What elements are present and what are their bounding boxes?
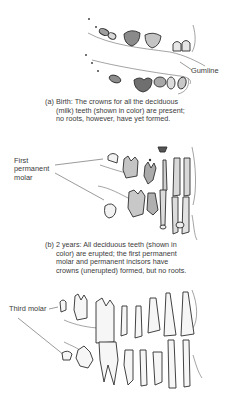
caption-a: (a) Birth: The crowns for all the decidu… (45, 98, 195, 128)
third-molar-label: Third molar (9, 305, 46, 313)
panel-a-illustration (0, 0, 230, 100)
caption-b: (b) 2 years: All deciduous teeth (shown … (45, 241, 195, 277)
panel-c-illustration (0, 275, 230, 393)
gumline-label: Gumline (191, 67, 219, 75)
caption-a-tag: (a) (45, 98, 54, 107)
first-permanent-molar-label: First permanent molar (14, 157, 64, 182)
panel-b-illustration (0, 125, 230, 245)
caption-a-text: Birth: The crowns for all the deciduous … (56, 98, 188, 124)
lower-deciduous-teeth (108, 74, 187, 92)
upper-deciduous-teeth (98, 27, 190, 51)
caption-b-tag: (b) (45, 241, 54, 250)
caption-b-text: 2 years: All deciduous teeth (shown in c… (56, 241, 188, 275)
